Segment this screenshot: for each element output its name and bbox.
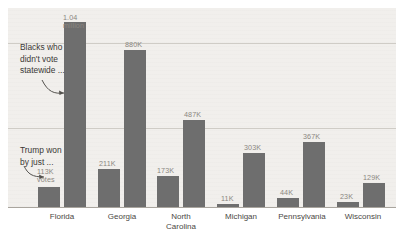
- bar-georgia-nonvoters: [124, 50, 146, 207]
- bar-north-carolina-margin: [157, 176, 179, 207]
- bar-wisconsin-nonvoters: [363, 183, 385, 207]
- bar-pennsylvania-margin: [277, 198, 299, 207]
- value-label-north-carolina-margin: 173K: [157, 167, 174, 175]
- value-label-florida-nonvoters: 1.04 million: [63, 14, 84, 31]
- category-label-pennsylvania: Pennsylvania: [269, 212, 335, 222]
- bar-florida-nonvoters: [64, 22, 86, 207]
- value-label-pennsylvania-margin: 44K: [280, 189, 293, 197]
- value-label-north-carolina-nonvoters: 487K: [184, 111, 201, 119]
- value-label-pennsylvania-nonvoters: 367K: [303, 133, 320, 141]
- bar-florida-margin: [38, 187, 60, 207]
- bar-pennsylvania-nonvoters: [303, 142, 325, 207]
- value-label-michigan-nonvoters: 303K: [244, 144, 261, 152]
- bar-wisconsin-margin: [337, 202, 359, 207]
- value-label-wisconsin-nonvoters: 129K: [363, 174, 380, 182]
- value-label-georgia-nonvoters: 880K: [125, 41, 142, 49]
- category-label-wisconsin: Wisconsin: [333, 212, 393, 222]
- category-label-florida: Florida: [32, 212, 92, 222]
- bar-north-carolina-nonvoters: [183, 120, 205, 207]
- annotation-nonvoters: Blacks who didn't vote statewide ...: [20, 42, 65, 77]
- bar-georgia-margin: [98, 169, 120, 207]
- annotation-arrow-margin: [22, 164, 48, 182]
- category-label-michigan: Michigan: [211, 212, 271, 222]
- value-label-georgia-margin: 211K: [99, 160, 116, 168]
- bar-michigan-margin: [217, 204, 239, 207]
- category-label-georgia: Georgia: [92, 212, 152, 222]
- category-label-north-carolina: North Carolina: [151, 212, 211, 231]
- value-label-michigan-margin: 11K: [221, 195, 234, 203]
- annotation-arrow-nonvoters: [40, 76, 72, 98]
- bars-layer: [0, 0, 403, 245]
- bar-michigan-nonvoters: [243, 153, 265, 207]
- value-label-wisconsin-margin: 23K: [340, 193, 353, 201]
- bar-chart: 113K votes 1.04 million 211K 880K 173K 4…: [0, 0, 403, 245]
